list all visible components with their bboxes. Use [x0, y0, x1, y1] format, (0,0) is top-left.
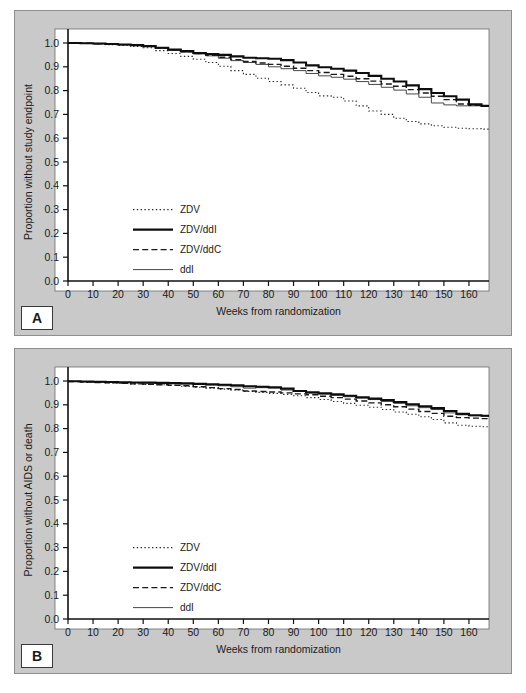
x-tick-label: 120 — [360, 626, 378, 638]
y-tick-label: 1.0 — [44, 37, 59, 49]
y-tick-label: 0.4 — [44, 517, 59, 529]
x-tick-label: 160 — [460, 626, 478, 638]
y-tick-label: 0.5 — [44, 494, 59, 506]
x-tick-label: 80 — [263, 288, 275, 300]
x-tick-label: 150 — [435, 626, 453, 638]
legend-label-zdv-ddi: ZDV/ddI — [180, 562, 217, 573]
y-tick-label: 0.7 — [44, 108, 59, 120]
x-axis-title: Weeks from randomization — [216, 305, 341, 317]
x-tick-label: 90 — [288, 626, 300, 638]
y-tick-label: 0.5 — [44, 156, 59, 168]
panel-a-svg: 0.00.10.20.30.40.50.60.70.80.91.00102030… — [15, 11, 513, 337]
y-tick-label: 0.2 — [44, 565, 59, 577]
panel-b: 0.00.10.20.30.40.50.60.70.80.91.00102030… — [14, 348, 512, 674]
x-tick-label: 40 — [162, 626, 174, 638]
y-tick-label: 0.1 — [44, 589, 59, 601]
panel-b-letter: B — [21, 644, 53, 668]
y-axis-title: Proportion without AIDS or death — [22, 423, 34, 576]
y-tick-label: 0.6 — [44, 132, 59, 144]
y-tick-label: 0.3 — [44, 203, 59, 215]
y-tick-label: 0.8 — [44, 422, 59, 434]
y-tick-label: 1.0 — [44, 375, 59, 387]
x-tick-label: 50 — [187, 626, 199, 638]
x-tick-label: 120 — [360, 288, 378, 300]
y-tick-label: 0.3 — [44, 541, 59, 553]
x-tick-label: 0 — [65, 626, 71, 638]
y-tick-label: 0.0 — [44, 275, 59, 287]
x-tick-label: 160 — [460, 288, 478, 300]
x-tick-label: 10 — [87, 626, 99, 638]
legend-label-ddi: ddI — [180, 264, 194, 275]
x-tick-label: 20 — [112, 288, 124, 300]
x-tick-label: 80 — [263, 626, 275, 638]
x-tick-label: 30 — [137, 288, 149, 300]
legend-label-zdv-ddc: ZDV/ddC — [180, 244, 221, 255]
x-tick-label: 90 — [288, 288, 300, 300]
y-tick-label: 0.9 — [44, 60, 59, 72]
x-tick-label: 130 — [385, 626, 403, 638]
y-tick-label: 0.6 — [44, 470, 59, 482]
panel-a-letter: A — [21, 306, 53, 330]
legend-label-ddi: ddI — [180, 602, 194, 613]
x-tick-label: 20 — [112, 626, 124, 638]
x-tick-label: 70 — [238, 288, 250, 300]
y-tick-label: 0.8 — [44, 84, 59, 96]
x-tick-label: 130 — [385, 288, 403, 300]
panel-b-svg: 0.00.10.20.30.40.50.60.70.80.91.00102030… — [15, 349, 513, 675]
legend-label-zdv: ZDV — [180, 204, 200, 215]
y-axis-title: Proportion without study endpoint — [22, 84, 34, 240]
x-tick-label: 110 — [335, 288, 352, 300]
x-tick-label: 0 — [65, 288, 71, 300]
y-tick-label: 0.1 — [44, 251, 59, 263]
x-tick-label: 50 — [187, 288, 199, 300]
y-tick-label: 0.9 — [44, 398, 59, 410]
y-tick-label: 0.7 — [44, 446, 59, 458]
x-tick-label: 60 — [213, 626, 225, 638]
x-tick-label: 140 — [410, 626, 428, 638]
y-tick-label: 0.2 — [44, 227, 59, 239]
x-tick-label: 10 — [87, 288, 99, 300]
x-tick-label: 60 — [213, 288, 225, 300]
x-tick-label: 30 — [137, 626, 149, 638]
panel-b-plot: 0.00.10.20.30.40.50.60.70.80.91.00102030… — [15, 349, 513, 675]
panel-a: 0.00.10.20.30.40.50.60.70.80.91.00102030… — [14, 10, 512, 336]
legend-label-zdv-ddc: ZDV/ddC — [180, 582, 221, 593]
legend-label-zdv-ddi: ZDV/ddI — [180, 224, 217, 235]
legend-label-zdv: ZDV — [180, 542, 200, 553]
x-tick-label: 100 — [310, 626, 328, 638]
x-tick-label: 140 — [410, 288, 428, 300]
panel-a-plot: 0.00.10.20.30.40.50.60.70.80.91.00102030… — [15, 11, 513, 337]
x-tick-label: 70 — [238, 626, 250, 638]
x-tick-label: 40 — [162, 288, 174, 300]
plot-background — [55, 29, 489, 291]
x-tick-label: 150 — [435, 288, 453, 300]
figure-container: 0.00.10.20.30.40.50.60.70.80.91.00102030… — [0, 0, 526, 693]
x-axis-title: Weeks from randomization — [216, 643, 341, 655]
x-tick-label: 110 — [335, 626, 352, 638]
y-tick-label: 0.0 — [44, 613, 59, 625]
y-tick-label: 0.4 — [44, 179, 59, 191]
x-tick-label: 100 — [310, 288, 328, 300]
